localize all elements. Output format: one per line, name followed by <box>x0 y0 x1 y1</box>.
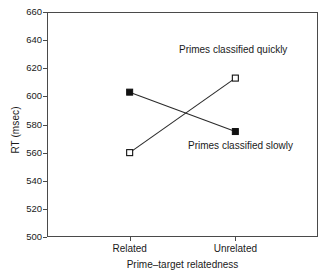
y-axis-tick-label: 600 <box>16 91 42 101</box>
x-axis-tick-label-related: Related <box>85 243 175 255</box>
y-axis-tick-label: 660 <box>16 7 42 17</box>
chart-figure: RT (msec) 500520540560580600620640660 Re… <box>0 0 331 278</box>
x-axis-title: Prime–target relatedness <box>47 259 318 271</box>
y-axis-tick-label: 620 <box>16 63 42 73</box>
y-axis-tick-label: 520 <box>16 204 42 214</box>
annotation-primes-classified-quickly: Primes classified quickly <box>179 44 287 56</box>
annotation-primes-classified-slowly: Primes classified slowly <box>188 140 293 152</box>
y-axis-tick-label: 560 <box>16 148 42 158</box>
y-axis-tick-label: 540 <box>16 176 42 186</box>
y-axis-tick-label: 580 <box>16 120 42 130</box>
x-axis-tick-label-unrelated: Unrelated <box>190 243 280 255</box>
x-axis-tick-mark <box>130 237 131 241</box>
y-axis-tick-labels: 500520540560580600620640660 <box>16 0 42 278</box>
x-axis-tick-mark <box>235 237 236 241</box>
y-axis-tick-label: 500 <box>16 232 42 242</box>
y-axis-tick-label: 640 <box>16 35 42 45</box>
y-axis-tick-mark <box>43 237 47 238</box>
